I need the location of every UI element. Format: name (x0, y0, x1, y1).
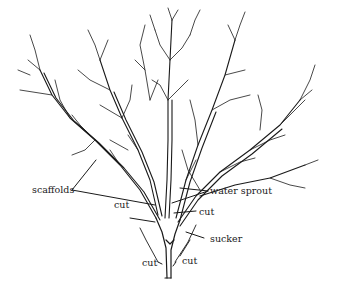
label-cut-left-upper: cut (114, 200, 129, 210)
label-cut-bottom-left: cut (142, 258, 157, 268)
label-cut-bottom-right: cut (182, 256, 197, 266)
tree-illustration (0, 0, 342, 286)
label-sucker: sucker (210, 234, 242, 244)
label-scaffolds: scaffolds (32, 185, 74, 195)
label-cut-right-upper: cut (199, 207, 214, 217)
label-water-sprout: water sprout (210, 186, 272, 196)
tree-pruning-diagram: scaffolds water sprout cut cut sucker cu… (0, 0, 342, 286)
trunk (156, 218, 180, 278)
